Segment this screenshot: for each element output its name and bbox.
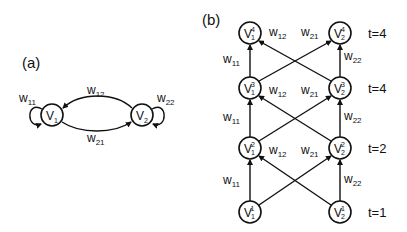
node-v2: V2 [131,104,153,126]
svg-text:V24: V24 [334,26,345,41]
node-v1: V1 [41,104,63,126]
node-v2-3: V23 [329,77,351,99]
panel-a: (a) V1 V2 w11 w12 w22 w21 [18,54,175,147]
time-label-row2: t=2 [368,141,386,156]
label-w22-row2: w22 [343,109,362,125]
panel-b-label: (b) [202,11,220,28]
edges [250,41,340,205]
label-w12-row4: w12 [268,25,287,41]
label-w12: w12 [86,83,105,99]
label-w11: w11 [18,91,37,107]
svg-text:V23: V23 [334,81,345,96]
svg-text:V11: V11 [244,205,255,220]
node-v2-4: V24 [329,22,351,44]
label-w21-row3: w21 [300,83,319,99]
time-label-row1: t=1 [368,205,386,220]
time-label-row4: t=4 [368,26,386,41]
node-v1-3: V13 [239,77,261,99]
label-w11-row1: w11 [222,173,241,189]
node-v2-2: V22 [329,137,351,159]
svg-text:V22: V22 [334,141,345,156]
label-w22-row1: w22 [343,172,362,188]
node-v1-1: V11 [239,201,261,223]
svg-text:V13: V13 [244,81,255,96]
label-w11-row3: w11 [222,52,241,68]
label-w22-row3: w22 [343,49,362,65]
edge-w21 [62,122,131,131]
node-v2-1: V21 [329,201,351,223]
svg-text:V12: V12 [244,141,255,156]
edge-w11-loop [30,107,42,124]
label-w21-row2: w21 [300,143,319,159]
panel-b: (b) V14 V24 [202,11,386,223]
label-w22: w22 [156,91,175,107]
edge-w22-loop [152,107,164,124]
svg-text:V14: V14 [244,26,255,41]
diagram-canvas: (a) V1 V2 w11 w12 w22 w21 (b) [0,0,407,232]
node-v1-2: V12 [239,137,261,159]
label-w12-row3: w12 [268,83,287,99]
label-w21-row4: w21 [300,25,319,41]
panel-a-label: (a) [22,54,40,71]
label-w21: w21 [86,131,105,147]
label-w11-row2: w11 [222,110,241,126]
label-w12-row2: w12 [268,143,287,159]
node-v1-4: V14 [239,22,261,44]
svg-text:V21: V21 [334,205,345,220]
time-label-row3: t=4 [368,81,386,96]
